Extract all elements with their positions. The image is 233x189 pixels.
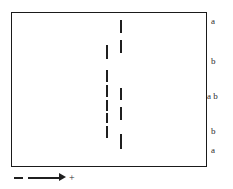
side-label-2: a b — [207, 92, 218, 101]
right-dashed-line-segment — [120, 20, 122, 33]
side-label-3: b — [211, 127, 216, 136]
left-dashed-line-segment — [106, 70, 108, 82]
legend: + — [14, 171, 94, 185]
legend-arrow-line-icon — [28, 177, 61, 179]
legend-plus-label: + — [69, 171, 75, 185]
side-label-1: b — [211, 57, 216, 66]
right-dashed-line-segment — [120, 88, 122, 100]
figure-frame — [11, 12, 207, 167]
side-label-4: a — [211, 146, 215, 155]
left-dashed-line-segment — [106, 85, 108, 97]
left-dashed-line-segment — [106, 45, 108, 59]
left-dashed-line-segment — [106, 113, 108, 123]
right-dashed-line-segment — [120, 134, 122, 149]
figure-container: aba bba + — [0, 0, 233, 189]
right-dashed-line-segment — [120, 107, 122, 120]
legend-dashed-segment-icon — [14, 177, 23, 179]
left-dashed-line-segment — [106, 126, 108, 138]
right-dashed-line-segment — [120, 40, 122, 53]
side-label-0: a — [211, 17, 215, 26]
right-arrow-icon — [59, 173, 66, 181]
left-dashed-line-segment — [106, 100, 108, 111]
